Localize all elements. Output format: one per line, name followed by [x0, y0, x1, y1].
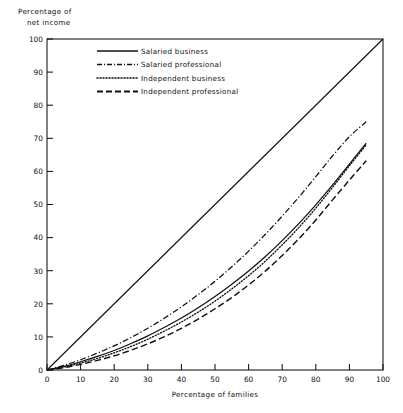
legend-label: Independent professional [141, 87, 238, 96]
y-axis-tick-labels: 100 90 80 70 60 50 40 30 20 10 0 [29, 35, 43, 375]
y-axis-title-line-2: net income [27, 18, 71, 27]
y-tick-label: 60 [34, 167, 44, 176]
y-tick-label: 50 [34, 200, 44, 209]
y-tick-label: 80 [34, 101, 44, 110]
series-line-salaried-professional [47, 122, 366, 370]
y-tick-label: 70 [34, 134, 44, 143]
chart-legend: Salaried business Salaried professional … [97, 47, 238, 97]
x-tick-label: 70 [277, 375, 287, 384]
x-axis-ticks [47, 364, 383, 370]
x-tick-label: 100 [376, 375, 390, 384]
x-axis-title: Percentage of families [172, 390, 259, 399]
x-tick-label: 40 [177, 375, 187, 384]
series-line-independent-professional [47, 161, 366, 370]
x-tick-label: 90 [345, 375, 355, 384]
y-tick-label: 100 [29, 35, 43, 44]
lorenz-curve-chart: Percentage of net income 100 90 80 70 60… [0, 0, 403, 413]
x-tick-label: 60 [244, 375, 254, 384]
y-tick-label: 20 [34, 300, 44, 309]
x-tick-label: 10 [76, 375, 86, 384]
y-tick-label: 90 [34, 68, 44, 77]
x-axis-tick-labels: 0 10 20 30 40 50 60 70 80 90 100 [45, 375, 391, 384]
y-tick-label: 40 [34, 233, 44, 242]
series-line-salaried-business [47, 143, 366, 370]
y-axis-ticks [47, 39, 53, 370]
y-tick-label: 10 [34, 333, 44, 342]
y-tick-label: 0 [38, 366, 43, 375]
chart-canvas: Percentage of net income 100 90 80 70 60… [0, 0, 403, 413]
y-tick-label: 30 [34, 267, 44, 276]
legend-label: Salaried professional [141, 60, 221, 69]
x-tick-label: 80 [311, 375, 321, 384]
y-axis-title-line-1: Percentage of [18, 7, 72, 16]
legend-label: Independent business [141, 74, 225, 83]
series-line-independent-business [47, 145, 366, 370]
x-tick-label: 50 [210, 375, 220, 384]
x-tick-label: 20 [109, 375, 119, 384]
x-tick-label: 0 [45, 375, 50, 384]
x-tick-label: 30 [143, 375, 153, 384]
legend-label: Salaried business [141, 47, 208, 56]
